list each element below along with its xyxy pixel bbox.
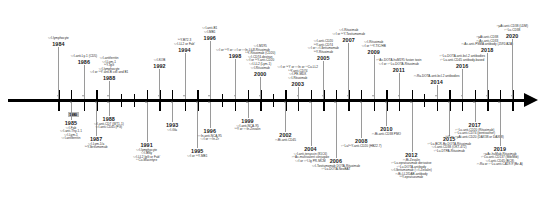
year-label-2009: 2009 (362, 49, 386, 55)
entry-list-1992: ¹³¹I-KOB (153, 59, 165, 63)
timeline-node-1987[interactable]: 1987¹³¹I-Lym-1/a⁹⁰Y-Ibritumomab (85, 136, 108, 150)
timeline-node-1984[interactable]: ¹³¹I-lymphocyte1984 (48, 37, 69, 47)
timeline-node-2019[interactable]: 2019²²µAc-huMab-Rituximab¹⁷⁷Lu-anti-CD13… (477, 146, 523, 167)
entry-list-2006: ¹³¹I-Tositumomab DOTA-Rituximab¹⁷⁷Lu-DOT… (312, 165, 360, 172)
year-label-1996: 1996 (202, 35, 217, 41)
leader-line-1988 (109, 102, 110, 116)
leader-line-1999 (248, 102, 249, 118)
entry: ¹⁷⁷Lu-anti-CD45 antibody-based (439, 59, 484, 63)
entry-list-2007: ¹³¹I-Rituximab¹³¹I or ⁹⁰Y-Tositumomab (332, 29, 364, 36)
entry-list-2017: ¹⁷⁷Lu-anti-CD20 (Rituximab)¹⁷⁷Lu-anti-CD… (446, 129, 504, 140)
timeline-node-2000[interactable]: ¹³¹I-M195¹³¹I-Rituximab⁹⁰Y-Rituximab (CD… (245, 45, 275, 77)
leader-arrow-2007 (347, 95, 349, 97)
leader-arrow-2011 (398, 95, 400, 97)
timeline-node-2002[interactable]: 2002²²³Bi-anti-CD45 (275, 132, 296, 142)
timeline-node-1994[interactable]: ⁹⁰Y-B72.3¹³¹I-LL2 or Fab′1994 (174, 39, 195, 53)
timeline-node-1993[interactable]: 1993¹³¹I-Gla (166, 122, 178, 132)
timeline-node-1988[interactable]: 1988¹³¹I-anti-CD7 (WT1-1)¹³¹I-anti-CD45 … (94, 116, 124, 130)
entry: ¹⁷⁷Lu-DTPA-Rituximab (427, 150, 471, 154)
timeline-axis-arrow-icon (524, 93, 538, 107)
leader-arrow-1987 (95, 101, 97, 103)
leader-line-1991 (147, 102, 148, 142)
leader-arrow-2018 (486, 95, 488, 97)
entry: ⁶⁷Cu-Macintyre (133, 159, 160, 163)
entry-list-1988: ¹³¹I-antiferritin¹³¹I-Lym-1⁹⁰Y-IgG¹³¹I-l… (90, 57, 128, 75)
leader-line-2012 (412, 102, 413, 152)
leader-arrow-1998 (234, 95, 236, 97)
entry: ¹³¹I or ¹⁷⁷Lu-DOTA-Rituximab (376, 63, 422, 67)
leader-arrow-1988 (107, 95, 109, 97)
entry: ⁹⁰Y or ²²µAt-anti-CD20 (DAX38 or DAX88) (446, 136, 504, 140)
leader-line-2009 (374, 55, 375, 99)
timeline-node-2020[interactable]: ²²µAt-anti-CD38 (LDM)¹⁷⁷Lu-CD382020 (496, 25, 528, 39)
leader-line-1986 (84, 65, 85, 99)
entry: ¹³¹I or ¹¹¹In-Zr (198, 138, 222, 142)
entry-list-2019: ²²µAc-huMab-Rituximab¹⁷⁷Lu-anti-CD137 (M… (477, 153, 523, 167)
timeline-node-1988[interactable]: ¹³¹I-antiferritin¹³¹I-Lym-1⁹⁰Y-IgG¹³¹I-l… (90, 57, 128, 81)
axis-tick-1990 (134, 94, 135, 107)
entry-list-1985: ¹³¹I-Fab¹³¹I-anti-Thy-1.1¹³¹I-Lym-1¹³¹I-… (60, 127, 82, 141)
leader-arrow-2009 (372, 95, 374, 97)
entry-list-2003: ¹³¹I or ⁹⁰Y or ¹¹¹In or ⁶⁷Cu-LL2⁹⁰Y-anti… (278, 66, 319, 80)
entry: ²²³Ac-anti-PSMA antibody (J591/A2A) (461, 43, 513, 47)
year-label-1992: 1992 (153, 63, 165, 69)
entry-list-1994: ⁹⁰Y-B72.3¹³¹I-LL2 or Fab′ (174, 39, 195, 46)
timeline-node-1985[interactable]: 1985¹³¹I-Fab¹³¹I-anti-Thy-1.1¹³¹I-Lym-1¹… (60, 120, 82, 141)
timeline-node-2017[interactable]: 2017¹⁷⁷Lu-anti-CD20 (Rituximab)¹⁷⁷Lu-ant… (446, 122, 504, 139)
entry-list-1999: ¹³¹I-anti-NCA-95⁹⁰Y or ¹¹¹In-Zevalin (235, 125, 261, 132)
entry: ¹³¹I or ⁹⁰Y-MB1 (187, 155, 207, 159)
timeline-node-2011[interactable]: ²²⁵Ac-DOTA-huM195 fusion toxin¹³¹I or ¹⁷… (376, 59, 422, 73)
year-label-2020: 2020 (496, 33, 528, 39)
leader-arrow-1986 (82, 95, 84, 97)
year-label-1994: 1994 (174, 47, 195, 53)
entry-list-2008: ¹⁷⁷Lu/⁹⁰Y-anti-CD20 (HB22.7) (341, 145, 381, 149)
entry-list-2015: ¹⁷⁷Lu-BCR-Bz-DOTA-Rituximab¹³¹I-anti-CD3… (427, 143, 471, 154)
leader-line-1996 (210, 102, 211, 128)
timeline-node-2008[interactable]: 2008¹⁷⁷Lu/⁹⁰Y-anti-CD20 (HB22.7) (341, 138, 381, 148)
timeline-node-2016[interactable]: ¹⁷⁷Lu-DOTA-anti-bcl-2 antibodies¹⁷⁷Lu-an… (439, 55, 484, 69)
entry: ⁹⁰Y-Rituximab (308, 51, 339, 55)
leader-arrow-1996 (208, 95, 210, 97)
year-label-2016: 2016 (439, 63, 484, 69)
leader-line-2010 (386, 102, 387, 126)
entry: ¹³¹I or ⁹⁰Y anti-B cell and B1 (90, 71, 128, 75)
entry: ⁹⁰Y-Ibritumomab (85, 146, 108, 150)
entry: ¹³¹I-Rituximab (245, 67, 275, 71)
leader-arrow-1994 (183, 95, 185, 97)
axis-tick-2013 (424, 94, 425, 107)
timeline-node-2005[interactable]: ¹³¹I-anti-CD20⁹⁰Y-anti-CD74¹³¹I or ¹³¹I-… (308, 40, 339, 61)
timeline-node-1992[interactable]: ¹³¹I-KOB1992 (153, 59, 165, 69)
axis-tick-1997 (222, 94, 223, 107)
entry-list-2010: ²²³Bi-anti-CD38 PMO (372, 133, 401, 137)
entry-list-1993: ¹³¹I-Gla (166, 129, 178, 133)
leader-arrow-1996 (208, 101, 210, 103)
leader-arrow-2000 (259, 95, 261, 97)
leader-arrow-1993 (171, 101, 173, 103)
leader-arrow-2010 (385, 101, 387, 103)
entry: ¹³¹I-LL2 or Fab′ (174, 43, 195, 47)
timeline-node-1996[interactable]: 1996¹¹¹In-anti-NCA-95¹³¹I or ¹¹¹In-Zr (198, 128, 222, 142)
timeline-node-2006[interactable]: 2006¹³¹I-Tositumomab DOTA-Rituximab¹⁷⁷Lu… (312, 158, 360, 172)
leader-arrow-1988 (107, 101, 109, 103)
leader-line-1996 (210, 41, 211, 99)
entry-list-2020: ²²µAt-anti-CD38 (LDM)¹⁷⁷Lu-CD38 (496, 25, 528, 32)
timeline-node-2009[interactable]: ¹³¹I-Rituximab¹³¹I or ⁹⁰Y-TIC/HB2009 (362, 41, 386, 55)
entry: ¹³¹I-lymphocyte (48, 37, 69, 41)
timeline-node-2007[interactable]: ¹³¹I-Rituximab¹³¹I or ⁹⁰Y-Tositumomab200… (332, 29, 364, 43)
year-label-1984: 1984 (48, 41, 69, 47)
timeline-node-2003[interactable]: ¹³¹I or ⁹⁰Y or ¹¹¹In or ⁶⁷Cu-LL2⁹⁰Y-anti… (278, 66, 319, 87)
leader-line-1994 (185, 53, 186, 99)
timeline-node-2010[interactable]: 2010²²³Bi-anti-CD38 PMO (372, 126, 401, 136)
leader-line-2003 (298, 87, 299, 99)
timeline-node-1996[interactable]: ¹³¹I-anti-B1¹³¹I-MB11996 (202, 27, 217, 41)
axis-origin-year-label: 1980 (68, 112, 79, 117)
timeline-node-1999[interactable]: 1999¹³¹I-anti-NCA-95⁹⁰Y or ¹¹¹In-Zevalin (235, 118, 261, 132)
timeline-node-2012[interactable]: 2012²²³Bi-Zevalin¹⁷⁷Lu-epratuzumab deriv… (391, 152, 432, 180)
leader-arrow-2003 (297, 95, 299, 97)
timeline-node-1991[interactable]: 1991¹³¹I-lymphocyte¹³¹I-BNy¹³¹I-LL2 IgG … (133, 142, 160, 163)
entry: ²²³Ra or ¹⁷⁷Lu-anti-CA19-9 (Bz-A) (477, 163, 523, 167)
leader-line-2007 (348, 43, 349, 99)
entry: ¹³¹I-antiferritin (60, 137, 82, 141)
timeline-node-2014[interactable]: ²²³Ra-DOTA-anti-bcl-2 antibodies2014 (414, 75, 460, 85)
timeline-node-1995[interactable]: 1995¹³¹I or ⁹⁰Y-MB1 (187, 148, 207, 158)
